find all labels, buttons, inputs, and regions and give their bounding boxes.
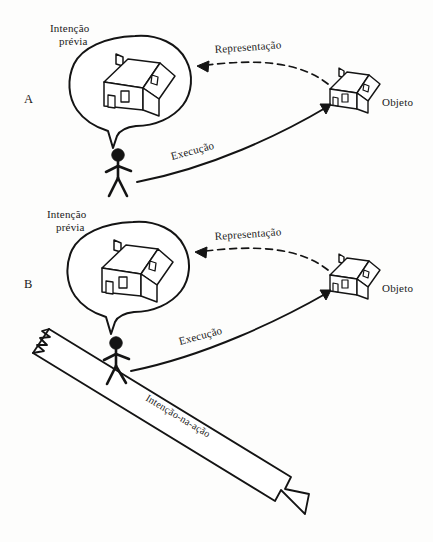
thought-label-line2: prévia <box>59 35 88 47</box>
execution-label: Execução <box>177 324 223 347</box>
panel-label-b: B <box>24 277 33 291</box>
diagram-canvas: Intenção prévia Representação Objeto Exe… <box>0 0 433 542</box>
panel-a: Intenção prévia Representação Objeto Exe… <box>24 22 413 196</box>
house-icon <box>330 254 380 299</box>
thought-label-line1: Intenção <box>50 22 90 34</box>
stick-figure-icon <box>106 149 131 196</box>
panel-b: Intenção prévia Representação Objeto Exe… <box>24 208 413 514</box>
representation-label: Representação <box>214 38 282 55</box>
thought-label-line1: Intenção <box>47 208 87 220</box>
object-label: Objeto <box>382 96 413 108</box>
ramp-arrow-icon <box>33 329 309 514</box>
representation-label: Representação <box>214 225 282 242</box>
dashed-arrow-icon <box>195 247 328 270</box>
execution-label: Execução <box>169 139 215 162</box>
panel-label-a: A <box>24 92 33 106</box>
object-label: Objeto <box>382 282 413 294</box>
house-icon <box>330 68 380 113</box>
dashed-arrow-icon <box>197 61 328 84</box>
thought-label-line2: prévia <box>56 221 85 233</box>
diagram-figure: Intenção prévia Representação Objeto Exe… <box>0 0 433 542</box>
